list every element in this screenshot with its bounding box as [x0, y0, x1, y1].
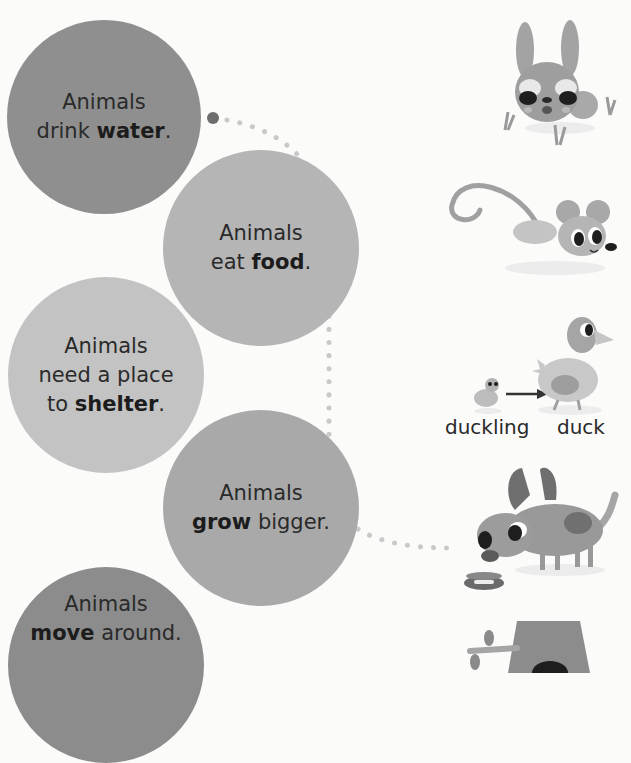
tree-icon — [0, 0, 631, 673]
